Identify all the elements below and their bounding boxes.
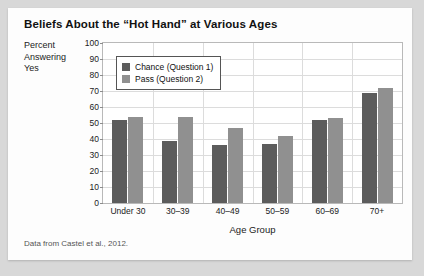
x-axis-tick-label: 40–49 (216, 206, 240, 216)
bar (328, 118, 343, 203)
bar-group (253, 43, 303, 203)
y-axis-tick-mark (100, 203, 103, 204)
bar (162, 141, 177, 203)
y-axis-tick-label: 0 (94, 198, 99, 208)
legend-swatch-icon (122, 63, 130, 71)
bar (112, 120, 127, 203)
chart-legend: Chance (Question 1) Pass (Question 2) (116, 56, 221, 90)
bar (128, 117, 143, 203)
y-axis-tick-label: 100 (85, 38, 99, 48)
legend-item: Pass (Question 2) (122, 73, 213, 85)
x-axis-title: Age Group (102, 224, 403, 235)
bar (362, 93, 377, 203)
legend-item: Chance (Question 1) (122, 61, 213, 73)
bar (212, 145, 227, 203)
bar (312, 120, 327, 203)
x-axis-tick-label: 50–59 (266, 206, 290, 216)
bar (262, 144, 277, 203)
bar-group (352, 43, 402, 203)
x-axis-tick-label: 30–39 (166, 206, 190, 216)
legend-label: Chance (Question 1) (135, 61, 213, 73)
y-axis-tick-label: 70 (90, 86, 99, 96)
legend-label: Pass (Question 2) (135, 73, 203, 85)
source-note: Data from Castel et al., 2012. (24, 239, 128, 248)
y-axis-label-line-2: Answering (24, 52, 84, 64)
y-axis-tick-label: 10 (90, 182, 99, 192)
x-axis-tick-label: Under 30 (110, 206, 145, 216)
x-axis-tick-label: 60–69 (315, 206, 339, 216)
legend-swatch-icon (122, 75, 130, 83)
y-axis-label: Percent Answering Yes (24, 40, 84, 75)
bar (178, 117, 193, 203)
y-axis-tick-label: 50 (90, 118, 99, 128)
y-axis-label-line-1: Percent (24, 40, 84, 52)
y-axis-tick-label: 60 (90, 102, 99, 112)
y-axis-tick-label: 90 (90, 54, 99, 64)
y-axis-tick-label: 20 (90, 166, 99, 176)
x-axis-tick-label: 70+ (370, 206, 384, 216)
y-axis-tick-label: 80 (90, 70, 99, 80)
y-axis-tick-label: 30 (90, 150, 99, 160)
y-axis-tick-label: 40 (90, 134, 99, 144)
bar (378, 88, 393, 203)
bar (278, 136, 293, 203)
chart-card: Beliefs About the “Hot Hand” at Various … (8, 8, 412, 260)
y-axis-label-line-3: Yes (24, 63, 84, 75)
bar-group (302, 43, 352, 203)
page-title: Beliefs About the “Hot Hand” at Various … (24, 18, 277, 30)
bar (228, 128, 243, 203)
